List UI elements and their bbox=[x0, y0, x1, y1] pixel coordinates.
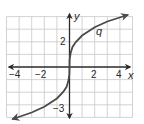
x-tick-4: 4 bbox=[116, 69, 122, 80]
y-tick-neg3: −3 bbox=[53, 103, 65, 114]
cube-root-graph: y x q −4 −2 2 4 2 −3 bbox=[0, 0, 144, 124]
x-axis-label: x bbox=[127, 69, 134, 81]
x-tick-neg2: −2 bbox=[35, 69, 47, 80]
y-axis-label: y bbox=[73, 10, 81, 22]
x-tick-2: 2 bbox=[91, 69, 97, 80]
x-tick-neg4: −4 bbox=[9, 69, 21, 80]
curve-label-q: q bbox=[96, 25, 103, 37]
y-tick-2: 2 bbox=[60, 36, 66, 47]
